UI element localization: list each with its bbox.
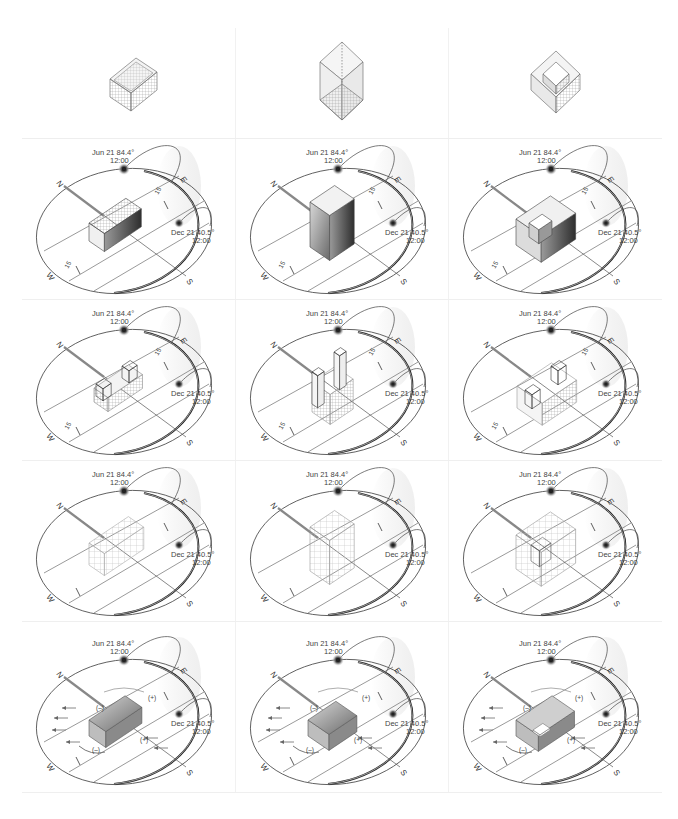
- summer-time-label: 12:00: [110, 317, 129, 326]
- sunpath-courtyard-wind: Jun 21 84.4°12:00Dec 21 40.5°12:00NESW(–…: [449, 622, 662, 792]
- north-axis-marker: [64, 186, 104, 216]
- compass-west: W: [258, 271, 270, 283]
- compass-south: S: [398, 438, 408, 448]
- dimension-label-lower: 15: [490, 259, 500, 269]
- tower-massing-icon: [236, 28, 449, 138]
- north-axis-marker: [491, 677, 531, 707]
- court-building: [516, 196, 576, 262]
- positive-pressure-label: (+): [575, 694, 583, 702]
- compass-north: N: [54, 501, 65, 511]
- sunpath-tower-split: 1515Jun 21 84.4°12:00Dec 21 40.5°12:00NE…: [236, 300, 450, 460]
- compass-west: W: [472, 271, 484, 283]
- negative-pressure-label: (–): [523, 704, 531, 712]
- wind-row: Jun 21 84.4°12:00Dec 21 40.5°12:00NESW(–…: [22, 622, 662, 793]
- compass-south: S: [398, 277, 408, 287]
- compass-north: N: [482, 670, 493, 680]
- north-axis-marker: [278, 677, 318, 707]
- compass-south: S: [184, 277, 194, 287]
- compass-north: N: [482, 501, 493, 511]
- negative-pressure-label: (–): [310, 704, 318, 712]
- winter-time-label: 12:00: [406, 727, 425, 736]
- north-axis-marker: [491, 347, 531, 377]
- summer-time-label: 12:00: [110, 478, 129, 487]
- compass-north: N: [268, 501, 279, 511]
- positive-pressure-label-2: (+): [567, 736, 575, 744]
- bar-building: [89, 198, 141, 251]
- positive-pressure-label-2: (+): [354, 736, 362, 744]
- compass-north: N: [482, 179, 493, 189]
- summer-time-label: 12:00: [324, 478, 343, 487]
- summer-time-label: 12:00: [324, 317, 343, 326]
- summer-time-label: 12:00: [324, 647, 343, 656]
- sunpath-courtyard-grid: Jun 21 84.4°12:00Dec 21 40.5°12:00NESW: [449, 461, 662, 621]
- sunpath-courtyard-split: 1515Jun 21 84.4°12:00Dec 21 40.5°12:00NE…: [449, 300, 662, 460]
- negative-pressure-label-2: (–): [92, 746, 100, 754]
- compass-west: W: [258, 432, 270, 444]
- winter-time-label: 12:00: [406, 558, 425, 567]
- summer-time-label: 12:00: [324, 156, 343, 165]
- compass-north: N: [482, 340, 493, 350]
- dimension-label-lower: 15: [490, 420, 500, 430]
- negative-pressure-label: (–): [96, 704, 104, 712]
- solar-grid-row: Jun 21 84.4°12:00Dec 21 40.5°12:00NESW J…: [22, 461, 662, 622]
- dimension-label-lower: 15: [276, 259, 286, 269]
- compass-north: N: [268, 179, 279, 189]
- compass-north: N: [54, 670, 65, 680]
- sunpath-bar-wind: Jun 21 84.4°12:00Dec 21 40.5°12:00NESW(–…: [22, 622, 236, 792]
- courtyard-massing: [449, 28, 662, 138]
- summer-time-label: 12:00: [537, 478, 556, 487]
- negative-pressure-label-2: (–): [306, 746, 314, 754]
- compass-west: W: [472, 762, 484, 774]
- positive-pressure-label: (+): [148, 694, 156, 702]
- compass-south: S: [612, 599, 622, 609]
- diagram-grid: 1515Jun 21 84.4°12:00Dec 21 40.5°12:00NE…: [22, 28, 662, 793]
- north-axis-marker: [64, 347, 104, 377]
- bar-massing: [22, 28, 236, 138]
- north-axis-marker: [64, 677, 104, 707]
- tower-building: [312, 348, 353, 425]
- solar-solid-row: 1515Jun 21 84.4°12:00Dec 21 40.5°12:00NE…: [22, 139, 662, 300]
- summer-time-label: 12:00: [537, 317, 556, 326]
- winter-time-label: 12:00: [192, 727, 211, 736]
- sunpath-bar-grid: Jun 21 84.4°12:00Dec 21 40.5°12:00NESW: [22, 461, 236, 621]
- north-axis-marker: [64, 508, 104, 538]
- compass-west: W: [472, 593, 484, 605]
- compass-south: S: [184, 599, 194, 609]
- winter-time-label: 12:00: [406, 236, 425, 245]
- winter-time-label: 12:00: [192, 558, 211, 567]
- sunpath-bar-split: 1515Jun 21 84.4°12:00Dec 21 40.5°12:00NE…: [22, 300, 236, 460]
- tower-building: [310, 186, 354, 261]
- bar-massing-icon: [22, 28, 235, 138]
- compass-west: W: [472, 432, 484, 444]
- compass-north: N: [54, 340, 65, 350]
- compass-south: S: [612, 768, 622, 778]
- winter-time-label: 12:00: [619, 397, 638, 406]
- compass-north: N: [54, 179, 65, 189]
- compass-west: W: [258, 762, 270, 774]
- sunpath-bar-solid: 1515Jun 21 84.4°12:00Dec 21 40.5°12:00NE…: [22, 139, 236, 299]
- tower-massing: [236, 28, 450, 138]
- compass-west: W: [44, 762, 56, 774]
- positive-pressure-label-2: (+): [140, 736, 148, 744]
- compass-west: W: [258, 593, 270, 605]
- bar-building: [94, 361, 142, 412]
- solar-split-row: 1515Jun 21 84.4°12:00Dec 21 40.5°12:00NE…: [22, 300, 662, 461]
- summer-time-label: 12:00: [537, 647, 556, 656]
- bar-building: [89, 517, 144, 576]
- dimension-label-lower: 15: [63, 259, 73, 269]
- summer-time-label: 12:00: [110, 156, 129, 165]
- summer-time-label: 12:00: [537, 156, 556, 165]
- winter-time-label: 12:00: [192, 397, 211, 406]
- compass-south: S: [612, 438, 622, 448]
- north-axis-marker: [491, 186, 531, 216]
- winter-time-label: 12:00: [619, 236, 638, 245]
- compass-south: S: [184, 768, 194, 778]
- winter-time-label: 12:00: [192, 236, 211, 245]
- dimension-label-lower: 15: [63, 420, 73, 430]
- massing-row: [22, 28, 662, 139]
- dimension-label-lower: 15: [276, 420, 286, 430]
- winter-time-label: 12:00: [619, 558, 638, 567]
- compass-north: N: [268, 340, 279, 350]
- sunpath-tower-wind: Jun 21 84.4°12:00Dec 21 40.5°12:00NESW(–…: [236, 622, 450, 792]
- compass-south: S: [398, 768, 408, 778]
